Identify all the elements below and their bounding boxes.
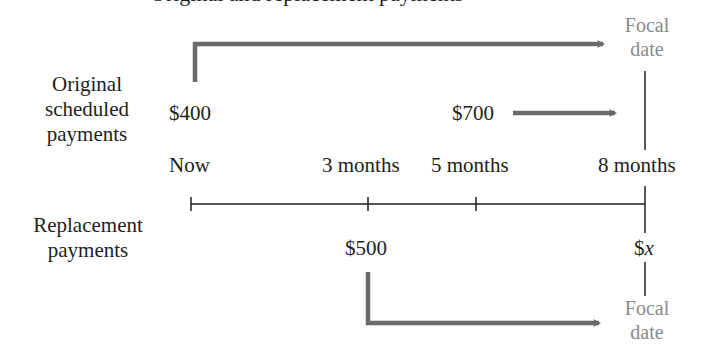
focal-date-label-bottom: Focal date: [617, 296, 677, 344]
payment-500: $500: [345, 236, 387, 260]
timeline-label-now: Now: [169, 153, 210, 177]
payment-x: $x: [634, 236, 654, 260]
row-label-original: Original scheduled payments: [12, 72, 162, 147]
timeline-label-8-months: 8 months: [598, 153, 676, 177]
payment-400: $400: [169, 101, 211, 125]
arrow-400-to-focal: [195, 44, 603, 82]
diagram-lines: [0, 0, 706, 358]
arrow-500-to-focal: [368, 272, 599, 323]
timeline-label-3-months: 3 months: [322, 153, 400, 177]
payment-700: $700: [452, 101, 494, 125]
timeline-axis: [191, 197, 645, 211]
focal-date-label-top: Focal date: [617, 13, 677, 61]
payment-timeline-diagram: Original and replacement payments: [0, 0, 706, 358]
row-label-replacement: Replacement payments: [13, 213, 163, 263]
timeline-label-5-months: 5 months: [431, 153, 509, 177]
